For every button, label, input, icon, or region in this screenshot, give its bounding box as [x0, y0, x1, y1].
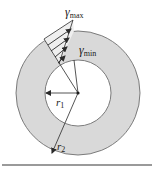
bottom-rule [2, 164, 152, 166]
shaft-cross-section-diagram: γmax γmin r1 r2 [0, 0, 154, 169]
gamma-max-label: γmax [65, 5, 84, 20]
